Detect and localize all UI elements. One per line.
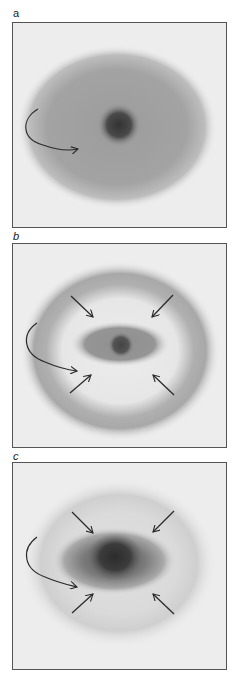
panel-c <box>12 462 227 670</box>
panel-a-graphic <box>13 23 227 228</box>
dark-core <box>97 103 141 147</box>
panel-b-graphic <box>13 244 227 448</box>
panel-c-label: c <box>13 451 19 462</box>
panel-a-label: a <box>13 8 19 19</box>
dark-core <box>87 533 143 581</box>
panel-a <box>12 22 227 228</box>
panel-b <box>12 243 227 448</box>
panel-b-label: b <box>13 231 19 242</box>
panel-c-graphic <box>13 463 227 670</box>
dark-core <box>108 332 134 358</box>
